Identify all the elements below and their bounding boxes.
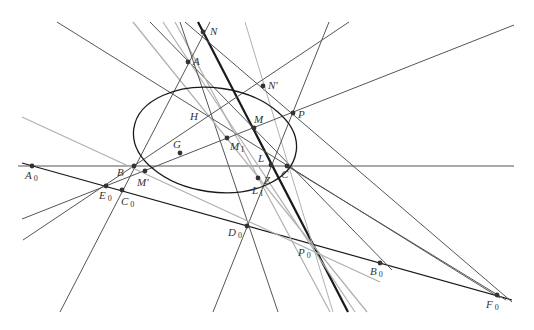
point-marker: [291, 111, 296, 116]
point-G: G: [173, 138, 182, 155]
point-marker: [495, 293, 500, 298]
line-light-left: [22, 117, 380, 282]
line-H-P-top: [23, 22, 349, 240]
construction-lines: [18, 22, 514, 312]
point-B0: B0: [370, 261, 383, 279]
point-label: A: [192, 55, 200, 67]
point-P0: P0: [297, 246, 311, 260]
point-marker: [143, 169, 148, 174]
point-M1: MI: [225, 136, 245, 154]
point-marker: [225, 136, 230, 141]
point-label: E0: [98, 189, 112, 203]
point-label: M': [136, 176, 149, 188]
point-marker: [30, 164, 35, 169]
point-label: C: [281, 168, 289, 180]
line-topleft-C: [57, 22, 500, 298]
line-C-B0: [287, 166, 506, 300]
point-marker: [269, 163, 274, 168]
point-P: P: [291, 108, 305, 120]
point-marker: [256, 176, 261, 181]
point-marker: [378, 261, 383, 266]
point-label: P0: [297, 246, 311, 260]
point-C0: C0: [120, 188, 135, 209]
point-L1: LI: [251, 184, 263, 198]
point-label: Z: [264, 174, 271, 186]
labeled-points: ANN'HMPMIGBCLZLIM'A0E0C0D0P0B0F0: [24, 25, 499, 312]
point-label: A0: [24, 169, 38, 183]
point-marker: [245, 224, 250, 229]
geometry-diagram: ANN'HMPMIGBCLZLIM'A0E0C0D0P0B0F0: [0, 0, 534, 330]
point-H: H: [189, 110, 199, 122]
point-label: M: [253, 113, 264, 125]
point-label: LI: [251, 184, 263, 198]
point-label: C0: [121, 195, 134, 209]
point-E0: E0: [98, 184, 112, 203]
point-label: N: [209, 25, 218, 37]
point-marker: [261, 84, 266, 89]
point-label: B0: [370, 265, 383, 279]
point-marker: [201, 30, 206, 35]
point-M: M: [252, 113, 264, 130]
point-label: N': [267, 79, 278, 91]
point-marker: [178, 151, 183, 156]
point-label: D0: [227, 226, 242, 240]
point-label: B: [117, 166, 124, 178]
point-label: L: [257, 152, 264, 164]
point-marker: [120, 188, 125, 193]
point-label: F0: [485, 298, 499, 312]
point-marker: [104, 184, 109, 189]
point-D0: D0: [227, 224, 249, 240]
line-light-top: [133, 22, 367, 312]
line-A-P0-a: [163, 22, 355, 312]
point-label: P: [297, 108, 305, 120]
point-label: H: [189, 110, 199, 122]
point-F0: F0: [485, 293, 499, 312]
point-label: G: [173, 138, 181, 150]
point-marker: [252, 126, 257, 131]
point-marker: [132, 164, 137, 169]
point-marker: [186, 60, 191, 65]
